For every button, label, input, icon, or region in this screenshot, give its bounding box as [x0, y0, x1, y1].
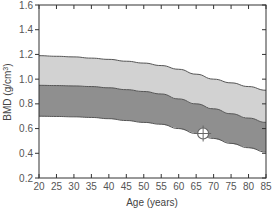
x-axis-title: Age (years) [126, 197, 178, 208]
x-tick-label: 65 [191, 181, 203, 192]
y-tick-label: 1.6 [19, 0, 33, 11]
x-tick-label: 20 [33, 181, 45, 192]
y-tick-label: 1.4 [19, 24, 33, 35]
bmd-chart: 0.20.40.60.81.01.21.41.6 202530354045505… [0, 0, 276, 211]
x-tick-label: 55 [156, 181, 168, 192]
y-tick-label: 0.6 [19, 123, 33, 134]
y-tick-label: 1.2 [19, 49, 33, 60]
y-tick-label: 0.4 [19, 148, 33, 159]
x-tick-label: 45 [121, 181, 133, 192]
x-tick-label: 70 [208, 181, 220, 192]
x-tick-label: 50 [138, 181, 150, 192]
y-tick-label: 1.0 [19, 74, 33, 85]
x-tick-label: 80 [243, 181, 255, 192]
x-tick-label: 30 [68, 181, 80, 192]
y-tick-label: 0.8 [19, 98, 33, 109]
y-axis-title: BMD (g/cm3) [2, 63, 14, 120]
x-tick-label: 35 [86, 181, 98, 192]
x-tick-label: 75 [226, 181, 238, 192]
y-tick-label: 0.2 [19, 173, 33, 184]
x-tick-label: 40 [103, 181, 115, 192]
reference-bands [39, 56, 266, 152]
x-tick-label: 25 [51, 181, 63, 192]
x-tick-label: 85 [260, 181, 272, 192]
x-tick-label: 60 [173, 181, 185, 192]
